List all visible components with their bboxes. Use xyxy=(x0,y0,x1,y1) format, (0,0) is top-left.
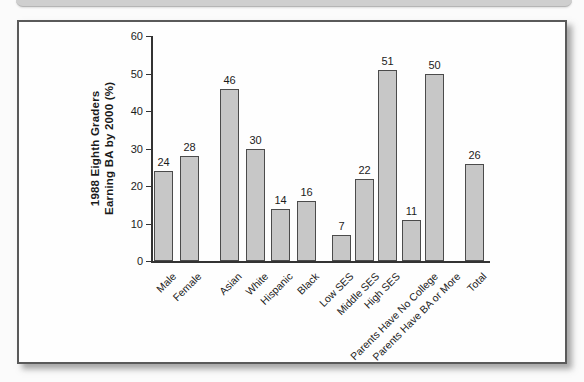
x-tick-label: Total xyxy=(465,270,489,294)
bar-value-label: 11 xyxy=(395,205,429,218)
bar xyxy=(402,220,421,261)
bar-value-label: 46 xyxy=(213,74,247,87)
bar-value-label: 50 xyxy=(418,59,452,72)
plot-area: 010203040506024Male28Female46Asian30Whit… xyxy=(19,22,565,362)
y-tick-label: 20 xyxy=(113,180,143,192)
bar xyxy=(220,89,239,262)
top-band-decoration xyxy=(16,0,572,7)
y-axis-line xyxy=(151,36,153,261)
x-tick-label: Black xyxy=(294,270,321,297)
chart-panel: 1988 Eighth Graders Earning BA by 2000 (… xyxy=(17,20,567,364)
bar xyxy=(355,179,374,262)
y-tick-mark xyxy=(146,111,151,112)
y-tick-mark xyxy=(146,224,151,225)
y-tick-label: 50 xyxy=(113,68,143,80)
bar-value-label: 30 xyxy=(239,134,273,147)
y-tick-label: 30 xyxy=(113,143,143,155)
bar xyxy=(332,235,351,261)
bar xyxy=(378,70,397,261)
y-tick-mark xyxy=(146,36,151,37)
y-tick-mark xyxy=(146,149,151,150)
bar xyxy=(465,164,484,262)
bar xyxy=(154,171,173,261)
bar-value-label: 7 xyxy=(325,220,359,233)
x-tick-label: Asian xyxy=(217,270,244,297)
bar xyxy=(246,149,265,262)
y-tick-label: 60 xyxy=(113,30,143,42)
y-tick-label: 0 xyxy=(113,255,143,267)
bar xyxy=(425,74,444,262)
y-tick-label: 10 xyxy=(113,218,143,230)
bar-value-label: 26 xyxy=(458,149,492,162)
x-axis-line xyxy=(151,261,490,263)
y-tick-mark xyxy=(146,74,151,75)
y-tick-label: 40 xyxy=(113,105,143,117)
bar-value-label: 24 xyxy=(147,156,181,169)
y-tick-mark xyxy=(146,186,151,187)
bar-value-label: 51 xyxy=(371,55,405,68)
bar xyxy=(297,201,316,261)
bar-value-label: 16 xyxy=(290,186,324,199)
bar-value-label: 28 xyxy=(173,141,207,154)
bar-value-label: 22 xyxy=(348,164,382,177)
bar xyxy=(271,209,290,262)
bar xyxy=(180,156,199,261)
